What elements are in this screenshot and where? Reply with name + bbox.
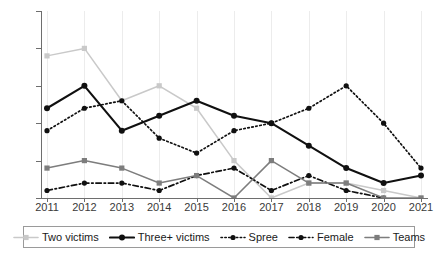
data-point-marker xyxy=(269,121,274,126)
data-point-marker xyxy=(44,188,49,193)
legend-item-female[interactable]: Female xyxy=(288,232,354,243)
legend-swatch-female-icon xyxy=(288,232,314,243)
data-point-marker xyxy=(343,165,349,171)
legend-label: Three+ victims xyxy=(138,232,210,243)
data-point-marker xyxy=(418,173,424,179)
data-point-marker xyxy=(156,113,162,119)
x-tick-mark xyxy=(122,198,123,202)
data-point-marker xyxy=(157,180,162,185)
x-tick-label: 2021 xyxy=(409,201,433,213)
data-point-marker xyxy=(306,106,311,111)
x-tick-label: 2011 xyxy=(35,201,59,213)
data-point-marker xyxy=(231,195,236,198)
x-tick-label: 2012 xyxy=(72,201,96,213)
legend-item-teams[interactable]: Teams xyxy=(364,232,425,243)
x-tick-label: 2016 xyxy=(222,201,246,213)
x-tick-label: 2019 xyxy=(334,201,358,213)
data-point-marker xyxy=(44,53,49,58)
data-point-marker xyxy=(119,128,125,134)
data-point-marker xyxy=(231,165,236,170)
data-point-marker xyxy=(119,98,124,103)
data-point-marker xyxy=(418,195,423,198)
x-tick-label: 2017 xyxy=(259,201,283,213)
data-point-marker xyxy=(231,128,236,133)
data-point-marker xyxy=(82,46,87,51)
data-point-marker xyxy=(44,128,49,133)
data-point-marker xyxy=(306,143,312,149)
legend-label: Two victims xyxy=(42,232,99,243)
data-point-marker xyxy=(344,188,349,193)
x-tick-label: 2018 xyxy=(297,201,321,213)
data-point-marker xyxy=(231,113,237,119)
data-series-layer xyxy=(41,11,427,198)
x-tick-mark xyxy=(271,198,272,202)
x-tick-mark xyxy=(234,198,235,202)
legend-swatch-two-victims-icon xyxy=(13,232,39,243)
x-tick-mark xyxy=(346,198,347,202)
data-point-marker xyxy=(194,173,199,178)
data-point-marker xyxy=(194,106,199,111)
data-point-marker xyxy=(81,83,87,89)
x-tick-mark xyxy=(384,198,385,202)
series-line xyxy=(47,86,421,168)
legend: Two victimsThree+ victimsSpreeFemaleTeam… xyxy=(23,226,415,248)
data-point-marker xyxy=(44,105,50,111)
data-point-marker xyxy=(306,180,311,185)
series-spree xyxy=(44,83,423,170)
data-point-marker xyxy=(157,83,162,88)
data-point-marker xyxy=(381,195,386,198)
legend-label: Spree xyxy=(249,232,278,243)
legend-swatch-three-victims-icon xyxy=(109,232,135,243)
data-point-marker xyxy=(231,158,236,163)
data-point-marker xyxy=(44,165,49,170)
data-point-marker xyxy=(381,121,386,126)
data-point-marker xyxy=(82,106,87,111)
data-point-marker xyxy=(306,173,311,178)
x-tick-mark xyxy=(421,198,422,202)
data-point-marker xyxy=(418,165,423,170)
data-point-marker xyxy=(119,165,124,170)
x-tick-label: 2020 xyxy=(371,201,395,213)
x-tick-label: 2015 xyxy=(184,201,208,213)
data-point-marker xyxy=(82,158,87,163)
legend-label: Female xyxy=(317,232,354,243)
x-tick-mark xyxy=(197,198,198,202)
legend-item-three-victims[interactable]: Three+ victims xyxy=(109,232,210,243)
data-point-marker xyxy=(119,180,124,185)
x-tick-label: 2013 xyxy=(110,201,134,213)
series-svg xyxy=(41,11,427,198)
data-point-marker xyxy=(157,136,162,141)
x-tick-mark xyxy=(47,198,48,202)
data-point-marker xyxy=(269,188,274,193)
x-tick-mark xyxy=(309,198,310,202)
series-female xyxy=(44,165,386,198)
data-point-marker xyxy=(82,180,87,185)
x-tick-label: 2014 xyxy=(147,201,171,213)
x-tick-mark xyxy=(159,198,160,202)
line-chart: 0510152025 20112012201320142015201620172… xyxy=(0,0,438,260)
data-point-marker xyxy=(344,83,349,88)
data-point-marker xyxy=(269,158,274,163)
series-teams xyxy=(44,158,423,198)
data-point-marker xyxy=(344,180,349,185)
legend-item-two-victims[interactable]: Two victims xyxy=(13,232,99,243)
data-point-marker xyxy=(269,195,274,198)
data-point-marker xyxy=(194,151,199,156)
data-point-marker xyxy=(157,188,162,193)
legend-label: Teams xyxy=(393,232,425,243)
legend-item-spree[interactable]: Spree xyxy=(220,232,278,243)
data-point-marker xyxy=(194,98,200,104)
y-tick-mark xyxy=(36,198,41,199)
legend-swatch-spree-icon xyxy=(220,232,246,243)
legend-swatch-teams-icon xyxy=(364,232,390,243)
data-point-marker xyxy=(381,180,387,186)
x-tick-mark xyxy=(84,198,85,202)
data-point-marker xyxy=(381,188,386,193)
